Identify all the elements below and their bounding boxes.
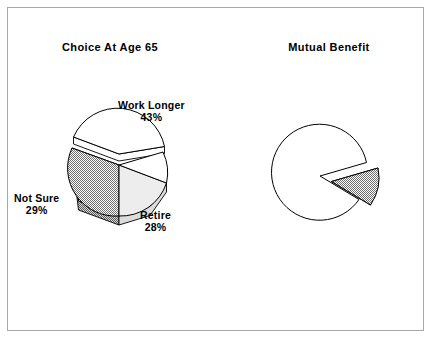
pie1-label-retire: Retire 28% xyxy=(140,209,171,233)
pie1-label-retire-pct: 28% xyxy=(140,221,171,233)
chart-page: Choice At Age 65 xyxy=(0,0,432,341)
pie-chart-mutual-benefit: Mutual Benefit Yes 90% No 10% xyxy=(230,0,432,341)
pie2-slice-yes xyxy=(271,124,366,220)
pie1-label-work-longer-pct: 43% xyxy=(118,111,185,123)
pie-chart-choice-at-age-65: Choice At Age 65 xyxy=(0,0,230,341)
pie-graphic-choice-at-age-65 xyxy=(0,0,230,341)
pie1-label-not-sure-name: Not Sure xyxy=(14,192,59,204)
pie-graphic-mutual-benefit xyxy=(230,0,432,341)
pie1-label-not-sure: Not Sure 29% xyxy=(14,192,59,216)
pie1-label-not-sure-pct: 29% xyxy=(14,204,59,216)
pie1-label-work-longer: Work Longer 43% xyxy=(118,99,185,123)
pie1-label-work-longer-name: Work Longer xyxy=(118,99,185,111)
pie1-label-retire-name: Retire xyxy=(140,209,171,221)
